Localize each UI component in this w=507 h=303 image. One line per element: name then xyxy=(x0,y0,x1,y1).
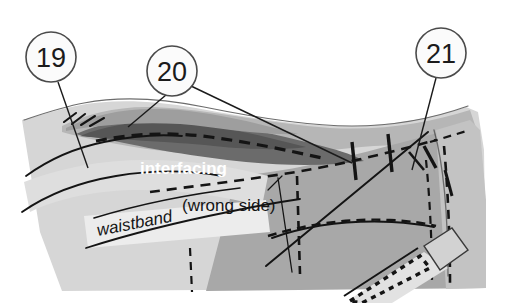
callout-19[interactable]: 19 xyxy=(26,32,76,82)
callout-19-label: 19 xyxy=(36,43,66,73)
label-interfacing: interfacing xyxy=(140,159,227,178)
callout-21-label: 21 xyxy=(426,39,456,69)
illustration-figure: 19 20 21 interfacing (wrong side) waistb… xyxy=(0,0,507,303)
callout-bubbles: 19 20 21 xyxy=(26,28,466,96)
callout-21[interactable]: 21 xyxy=(416,28,466,78)
callout-20-label: 20 xyxy=(157,57,187,87)
label-wrong-side: (wrong side) xyxy=(182,196,276,215)
callout-20[interactable]: 20 xyxy=(147,46,197,96)
sewing-diagram-canvas: 19 20 21 interfacing (wrong side) waistb… xyxy=(0,0,507,303)
